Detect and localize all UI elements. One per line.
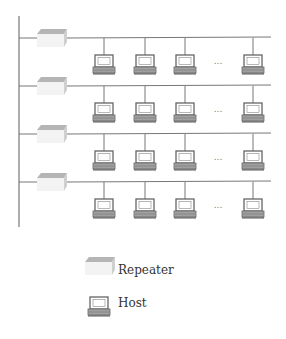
legend-host-label: Host: [118, 296, 147, 310]
bus-line: [64, 85, 271, 86]
legend-repeater-icon: [85, 257, 115, 275]
segment-1: ...: [19, 29, 271, 75]
ellipsis: ...: [214, 200, 223, 210]
host-icon: [93, 151, 115, 171]
legend-host-icon: [88, 297, 110, 317]
segment-3: ...: [19, 125, 271, 171]
host-icon: [93, 103, 115, 123]
host-icon: [134, 55, 156, 75]
repeater-icon: [37, 125, 67, 143]
ellipsis: ...: [214, 152, 223, 162]
host-icon: [93, 55, 115, 75]
repeater-icon: [37, 29, 67, 47]
segment-2: ...: [19, 77, 271, 123]
bus-line: [64, 181, 271, 182]
host-icon: [93, 199, 115, 219]
bus-line: [64, 37, 271, 38]
repeater-icon: [37, 173, 67, 191]
host-icon: [242, 199, 264, 219]
host-icon: [134, 199, 156, 219]
legend-repeater-label: Repeater: [118, 263, 174, 277]
bus-line: [64, 133, 271, 134]
host-icon: [174, 199, 196, 219]
host-icon: [174, 55, 196, 75]
ellipsis: ...: [214, 56, 223, 66]
host-icon: [242, 151, 264, 171]
network-diagram: ............: [0, 0, 286, 339]
host-icon: [134, 103, 156, 123]
host-icon: [134, 151, 156, 171]
repeater-icon: [37, 77, 67, 95]
host-icon: [174, 151, 196, 171]
segment-4: ...: [19, 173, 271, 219]
host-icon: [174, 103, 196, 123]
host-icon: [242, 103, 264, 123]
ellipsis: ...: [214, 104, 223, 114]
host-icon: [242, 55, 264, 75]
